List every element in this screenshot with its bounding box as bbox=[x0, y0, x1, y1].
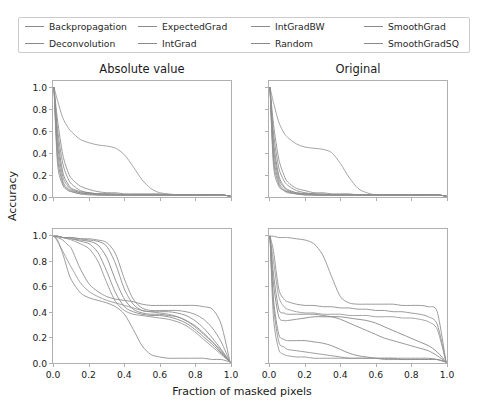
legend-entry-label: Backpropagation bbox=[49, 22, 127, 31]
y-tick-mark bbox=[265, 109, 268, 110]
x-tick-mark bbox=[447, 364, 448, 367]
x-tick-mark bbox=[340, 364, 341, 367]
line-series-deconvolution bbox=[54, 87, 230, 196]
y-tick-mark bbox=[49, 363, 52, 364]
y-tick-mark bbox=[49, 286, 52, 287]
y-tick-label: 0.6 bbox=[32, 125, 47, 136]
y-tick-label: 1.0 bbox=[32, 230, 47, 241]
x-tick-label: 0.8 bbox=[404, 369, 419, 380]
legend-entry-label: ExpectedGrad bbox=[162, 22, 227, 31]
line-series-deconvolution bbox=[54, 236, 230, 362]
line-series-deconvolution bbox=[270, 87, 446, 196]
x-tick-mark bbox=[160, 198, 161, 201]
legend-entry-intgrad[interactable]: IntGrad bbox=[138, 35, 251, 52]
line-series-intgrad bbox=[270, 236, 446, 362]
y-tick-label: 0.8 bbox=[32, 103, 47, 114]
legend-entry-label: Deconvolution bbox=[49, 39, 115, 48]
subplot-bottom-left: 1.00.80.60.40.20.00.00.20.40.60.81.0 bbox=[52, 228, 232, 364]
subplot-top-left: Absolute value 1.00.80.60.40.20.0 bbox=[52, 80, 232, 198]
line-series-intgradbw bbox=[270, 236, 446, 362]
x-tick-mark bbox=[269, 364, 270, 367]
legend-entry-label: SmoothGrad bbox=[388, 22, 446, 31]
x-tick-mark bbox=[305, 198, 306, 201]
y-tick-mark bbox=[265, 131, 268, 132]
x-tick-mark bbox=[195, 198, 196, 201]
line-series-random bbox=[270, 87, 446, 196]
x-tick-label: 0.0 bbox=[262, 369, 277, 380]
x-tick-mark bbox=[160, 364, 161, 367]
legend-line-icon bbox=[138, 26, 157, 27]
legend-entry-label: IntGrad bbox=[162, 39, 197, 48]
x-tick-label: 0.2 bbox=[297, 369, 312, 380]
x-tick-label: 1.0 bbox=[440, 369, 455, 380]
x-tick-mark bbox=[340, 198, 341, 201]
x-tick-mark bbox=[411, 198, 412, 201]
y-tick-mark bbox=[49, 235, 52, 236]
x-tick-label: 0.6 bbox=[368, 369, 383, 380]
y-tick-label: 0.8 bbox=[32, 255, 47, 266]
legend-entry-expectedgrad[interactable]: ExpectedGrad bbox=[138, 18, 251, 35]
y-tick-mark bbox=[265, 197, 268, 198]
y-tick-mark bbox=[49, 197, 52, 198]
line-series-backpropagation bbox=[54, 236, 230, 362]
legend-entry-smoothgradsq[interactable]: SmoothGradSQ bbox=[364, 35, 477, 52]
subplot-title-absolute-value: Absolute value bbox=[52, 62, 232, 76]
y-tick-label: 0.6 bbox=[32, 281, 47, 292]
legend-line-icon bbox=[251, 43, 270, 44]
legend-line-icon bbox=[251, 26, 270, 27]
plot-lines bbox=[53, 81, 231, 197]
x-tick-mark bbox=[195, 364, 196, 367]
x-tick-mark bbox=[53, 198, 54, 201]
y-axis-label: Accuracy bbox=[6, 171, 19, 221]
line-series-smoothgradsq bbox=[270, 87, 446, 196]
x-tick-mark bbox=[447, 198, 448, 201]
line-series-backpropagation bbox=[270, 236, 446, 362]
y-tick-mark bbox=[265, 235, 268, 236]
legend-line-icon bbox=[364, 26, 383, 27]
y-tick-mark bbox=[49, 261, 52, 262]
y-tick-mark bbox=[265, 175, 268, 176]
y-tick-label: 1.0 bbox=[32, 81, 47, 92]
legend-entry-deconvolution[interactable]: Deconvolution bbox=[25, 35, 138, 52]
subplot-top-right: Original bbox=[268, 80, 448, 198]
line-series-smoothgrad bbox=[270, 87, 446, 196]
line-series-intgrad bbox=[270, 87, 446, 196]
plot-frame bbox=[52, 80, 232, 198]
plot-lines bbox=[269, 229, 447, 363]
y-tick-label: 0.4 bbox=[32, 306, 47, 317]
legend-line-icon bbox=[364, 43, 383, 44]
y-tick-label: 0.4 bbox=[32, 147, 47, 158]
x-tick-mark bbox=[89, 364, 90, 367]
subplot-bottom-right: 0.00.20.40.60.81.0 bbox=[268, 228, 448, 364]
x-tick-mark bbox=[269, 198, 270, 201]
y-tick-label: 0.0 bbox=[32, 192, 47, 203]
line-series-smoothgradsq bbox=[54, 236, 230, 362]
figure-canvas: BackpropagationExpectedGradIntGradBWSmoo… bbox=[0, 0, 484, 408]
x-tick-mark bbox=[231, 364, 232, 367]
x-tick-mark bbox=[124, 364, 125, 367]
legend-entry-intgradbw[interactable]: IntGradBW bbox=[251, 18, 364, 35]
y-tick-mark bbox=[265, 363, 268, 364]
legend-entry-random[interactable]: Random bbox=[251, 35, 364, 52]
legend-line-icon bbox=[25, 26, 44, 27]
subplot-title-original: Original bbox=[268, 62, 448, 76]
legend-entry-smoothgrad[interactable]: SmoothGrad bbox=[364, 18, 477, 35]
line-series-expectedgrad bbox=[54, 236, 230, 362]
legend-entry-backpropagation[interactable]: Backpropagation bbox=[25, 18, 138, 35]
y-tick-mark bbox=[49, 175, 52, 176]
x-tick-mark bbox=[376, 364, 377, 367]
x-tick-mark bbox=[231, 198, 232, 201]
plot-lines bbox=[53, 229, 231, 363]
x-tick-mark bbox=[89, 198, 90, 201]
legend-line-icon bbox=[138, 43, 157, 44]
x-tick-label: 0.2 bbox=[81, 369, 96, 380]
line-series-intgrad bbox=[54, 236, 230, 362]
x-tick-mark bbox=[124, 198, 125, 201]
line-series-smoothgrad bbox=[270, 236, 446, 362]
legend: BackpropagationExpectedGradIntGradBWSmoo… bbox=[18, 17, 470, 53]
y-tick-mark bbox=[49, 131, 52, 132]
line-series-intgradbw bbox=[270, 87, 446, 196]
legend-entry-label: Random bbox=[275, 39, 313, 48]
plot-frame bbox=[268, 228, 448, 364]
y-tick-mark bbox=[49, 153, 52, 154]
